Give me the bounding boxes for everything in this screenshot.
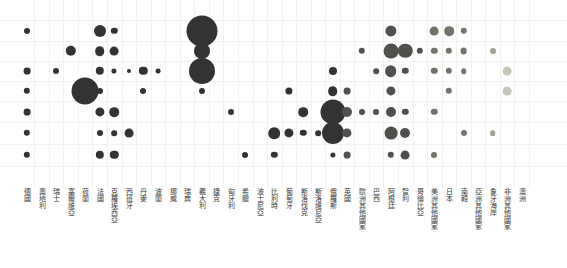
bubble-marker (124, 129, 133, 138)
bubble-marker (112, 130, 118, 136)
bubble-marker (140, 88, 146, 94)
category-axis-label: 波蘭 (154, 188, 162, 202)
bubble-marker (127, 69, 131, 73)
category-axis-label: 匈牙利 (227, 188, 235, 209)
bubble-marker (72, 78, 99, 105)
bubble-marker (139, 67, 147, 75)
bubble-marker (94, 25, 106, 37)
category-axis-label: 英國 (343, 188, 351, 202)
bubble-marker (110, 151, 118, 159)
bubble-marker (24, 152, 30, 158)
bubble-marker (111, 28, 117, 34)
bubble-marker (95, 107, 104, 116)
category-axis-label: 日本 (445, 188, 453, 202)
category-axis-label: 巴西 (372, 188, 380, 202)
bubble-marker (344, 152, 351, 159)
bubble-marker (24, 130, 30, 136)
bubble-marker (503, 87, 512, 96)
bubble-marker (322, 122, 344, 144)
bubble-marker (342, 107, 352, 117)
bubble-marker (112, 68, 117, 73)
bubble-marker (402, 109, 408, 115)
bubble-marker (24, 109, 31, 116)
category-axis-label: 哥倫比亞 (416, 188, 424, 216)
category-axis-label: 象牙海岸 (488, 188, 496, 216)
bubble-matrix-chart: 德國奧地利瑞士塞爾維亞荷蘭法國克羅埃西亞西班牙丹麥波蘭挪威瑞典義大利捷克匈牙利希… (0, 0, 567, 268)
category-axis-label: 塞爾維亞 (67, 188, 75, 216)
bubble-marker (460, 28, 466, 34)
bubble-marker (189, 58, 215, 84)
bubble-marker (65, 46, 75, 56)
bubble-marker (490, 130, 496, 136)
bubble-marker (503, 67, 512, 76)
bubble-marker (373, 68, 379, 74)
category-axis-label: 斯洛維尼亞 (314, 188, 322, 223)
bubble-marker (461, 130, 467, 136)
bubble-marker (400, 128, 410, 138)
bubble-marker (156, 69, 161, 74)
bubble-marker (53, 68, 59, 74)
bubble-marker (431, 152, 437, 158)
plot-area (0, 0, 567, 188)
bubble-marker (358, 48, 364, 54)
category-axis-label: 比利時 (270, 188, 278, 209)
bubble-marker (431, 68, 437, 74)
bubble-marker (385, 65, 397, 77)
category-axis-label: 丹麥 (139, 188, 147, 202)
category-axis-label: 美洲其他國家 (430, 188, 438, 230)
category-axis-label: 葡萄牙 (285, 188, 293, 209)
bubble-marker (344, 88, 351, 95)
category-axis-label: 歐洲其他國家 (358, 188, 366, 230)
bubble-marker (328, 86, 338, 96)
bubble-marker (383, 44, 398, 59)
bubble-marker (330, 152, 335, 157)
bubble-marker (329, 67, 337, 75)
bubble-marker (430, 27, 439, 36)
category-axis-label: 非洲其他國家 (503, 188, 511, 230)
bubble-marker (24, 28, 30, 34)
bubble-marker (95, 46, 105, 56)
category-axis-label: 德國 (23, 188, 31, 202)
bubble-marker (96, 67, 104, 75)
bubble-marker (300, 130, 306, 136)
category-axis-label: 奧地利 (37, 188, 45, 209)
category-axis-label: 瑞典 (183, 188, 191, 202)
bubble-marker (359, 109, 365, 115)
bubble-marker (97, 88, 103, 94)
bubble-marker (490, 48, 496, 54)
bubble-marker (446, 68, 452, 74)
bubble-marker (401, 151, 410, 160)
bubble-marker (315, 130, 321, 136)
category-axis-label: 南韓 (459, 188, 467, 202)
bubble-marker (271, 152, 277, 158)
category-axis-label: 斯洛伐克 (299, 188, 307, 216)
bubble-marker (386, 86, 395, 95)
bubble-marker (446, 48, 452, 54)
bubble-marker (285, 87, 292, 94)
bubble-marker (194, 43, 210, 59)
category-axis-label: 智利 (401, 188, 409, 202)
bubble-marker (242, 152, 248, 158)
category-axis-label: 波士尼亞 (256, 188, 264, 216)
category-axis-label: 阿根廷 (387, 188, 395, 209)
bubble-marker (431, 48, 437, 54)
bubble-marker (417, 48, 423, 54)
bubble-marker (431, 109, 437, 115)
bubble-layer (0, 0, 567, 188)
bubble-marker (384, 127, 397, 140)
bubble-marker (24, 68, 31, 75)
category-axis-label: 希臘 (241, 188, 249, 202)
bubble-marker (460, 48, 467, 55)
bubble-marker (186, 16, 217, 47)
category-axis-label: 俄羅斯 (328, 188, 336, 209)
category-axis-label: 義大利 (197, 188, 205, 209)
category-axis: 德國奧地利瑞士塞爾維亞荷蘭法國克羅埃西亞西班牙丹麥波蘭挪威瑞典義大利捷克匈牙利希… (0, 188, 567, 268)
category-axis-label: 荷蘭 (81, 188, 89, 202)
bubble-marker (299, 107, 309, 117)
bubble-marker (444, 26, 454, 36)
bubble-marker (24, 88, 30, 94)
bubble-marker (228, 109, 234, 115)
category-axis-label: 亞洲其他國家 (474, 188, 482, 230)
bubble-marker (110, 107, 120, 117)
bubble-marker (269, 127, 281, 139)
